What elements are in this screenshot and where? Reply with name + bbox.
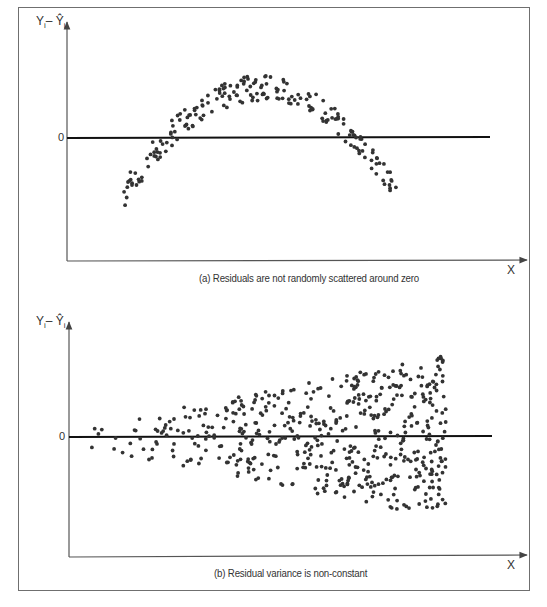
data-point — [385, 478, 389, 482]
data-point — [357, 483, 361, 487]
data-point — [227, 94, 231, 98]
data-point — [402, 374, 406, 378]
data-point — [441, 471, 445, 475]
data-point — [352, 400, 356, 404]
data-point — [222, 426, 226, 430]
data-point — [429, 497, 433, 501]
data-point — [242, 76, 246, 80]
data-point — [413, 405, 417, 409]
data-point — [339, 483, 343, 487]
panel-a-zero-line — [67, 137, 490, 138]
data-point — [343, 495, 347, 499]
data-point — [433, 450, 437, 454]
data-point — [347, 463, 351, 467]
data-point — [204, 448, 208, 452]
data-point — [373, 449, 377, 453]
data-point — [235, 84, 239, 88]
data-point — [170, 144, 174, 148]
data-point — [250, 99, 254, 103]
panel-a-zero-label: 0 — [58, 131, 64, 143]
data-point — [244, 423, 248, 427]
data-point — [267, 394, 271, 398]
data-point — [233, 399, 237, 403]
data-point — [357, 450, 361, 454]
data-point — [217, 456, 221, 460]
data-point — [129, 170, 133, 174]
data-point — [323, 111, 327, 115]
data-point — [264, 405, 268, 409]
data-point — [232, 420, 236, 424]
data-point — [363, 409, 367, 413]
data-point — [257, 429, 261, 433]
data-point — [290, 429, 294, 433]
data-point — [359, 411, 363, 415]
data-point — [425, 385, 429, 389]
data-point — [431, 403, 435, 407]
panel-a-points — [122, 74, 398, 207]
data-point — [371, 379, 375, 383]
data-point — [199, 408, 203, 412]
data-point — [165, 433, 169, 437]
data-point — [287, 401, 291, 405]
data-point — [264, 74, 268, 78]
data-point — [345, 374, 349, 378]
data-point — [273, 404, 277, 408]
data-point — [366, 462, 370, 466]
data-point — [248, 461, 252, 465]
data-point — [316, 492, 320, 496]
data-point — [399, 441, 403, 445]
data-point — [437, 478, 441, 482]
data-point — [407, 506, 411, 510]
panel-b-points — [90, 355, 448, 511]
data-point — [362, 468, 366, 472]
data-point — [379, 445, 383, 449]
data-point — [269, 75, 273, 79]
panel-a-x-axis — [67, 260, 527, 261]
data-point — [391, 383, 395, 387]
data-point — [420, 384, 424, 388]
data-point — [237, 395, 241, 399]
data-point — [396, 434, 400, 438]
data-point — [215, 97, 219, 101]
data-point — [187, 113, 191, 117]
data-point — [431, 486, 435, 490]
data-point — [258, 433, 262, 437]
data-point — [192, 408, 196, 412]
data-point — [439, 421, 443, 425]
data-point — [287, 97, 291, 101]
data-point — [354, 425, 358, 429]
data-point — [183, 108, 187, 112]
data-point — [318, 428, 322, 432]
data-point — [421, 392, 425, 396]
data-point — [160, 431, 164, 435]
data-point — [138, 417, 142, 421]
data-point — [159, 139, 163, 143]
data-point — [314, 92, 318, 96]
data-point — [222, 87, 226, 91]
data-point — [146, 165, 150, 169]
data-point — [381, 179, 385, 183]
data-point — [435, 473, 439, 477]
data-point — [250, 407, 254, 411]
data-point — [176, 429, 180, 433]
data-point — [171, 124, 175, 128]
data-point — [408, 475, 412, 479]
data-point — [354, 465, 358, 469]
data-point — [321, 119, 325, 123]
data-point — [306, 456, 310, 460]
data-point — [276, 466, 280, 470]
data-point — [369, 413, 373, 417]
data-point — [168, 420, 172, 424]
data-point — [336, 132, 340, 136]
data-point — [430, 469, 434, 473]
data-point — [287, 101, 291, 105]
data-point — [430, 480, 434, 484]
data-point — [440, 411, 444, 415]
data-point — [212, 436, 216, 440]
panel-a-x-axis-label: X — [507, 263, 515, 277]
data-point — [295, 467, 299, 471]
data-point — [334, 468, 338, 472]
data-point — [239, 399, 243, 403]
data-point — [433, 386, 437, 390]
data-point — [372, 376, 376, 380]
